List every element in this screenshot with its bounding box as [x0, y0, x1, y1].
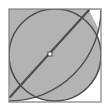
midpoint-marker [48, 52, 52, 56]
geometry-figure-svg [0, 0, 108, 112]
figure-container: Circle inscribed in square with diagonal… [0, 0, 108, 112]
